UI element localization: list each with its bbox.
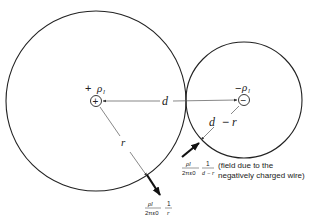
svg-text:2πε0: 2πε0 [145, 210, 159, 216]
field-note-line2: negatively charged wire) [218, 171, 305, 180]
distance-d-minus-r-line-upper [231, 106, 239, 114]
negative-charge-sign: − [241, 95, 247, 106]
field-formula-positive: ρl 2πε0 1 r [145, 200, 172, 216]
two-wire-field-diagram: d r d − r + + ρ l − − ρ l ρl 2πε0 1 r ρl… [0, 0, 328, 220]
distance-d-minus-r-label-d: d [209, 115, 216, 129]
field-formula-negative: ρl 2πε0 1 d − r (field due to the negati… [182, 160, 305, 180]
negative-charge-label-sign: − [235, 82, 241, 94]
svg-text:ρl: ρl [147, 200, 153, 207]
svg-text:2πε0: 2πε0 [182, 170, 196, 176]
svg-text:d − r: d − r [202, 170, 215, 176]
svg-text:r: r [167, 209, 170, 216]
svg-text:ρl: ρl [185, 160, 191, 167]
field-arrow-positive [147, 175, 160, 195]
negative-charge-label-sub: l [248, 87, 250, 95]
field-note-line1: (field due to the [218, 161, 274, 170]
distance-d-minus-r-label-r: r [232, 115, 237, 129]
positive-charge-sign: + [93, 96, 99, 107]
positive-charge-label-rho: ρ [96, 82, 102, 94]
positive-charge-label-sub: l [103, 88, 105, 96]
radius-r-line-lower [130, 152, 147, 176]
positive-charge-label-sign: + [85, 82, 91, 94]
radius-r-label: r [121, 136, 126, 148]
distance-d-label: d [162, 94, 169, 108]
svg-text:1: 1 [206, 160, 210, 167]
distance-d-minus-r-label-minus: − [222, 115, 229, 129]
negative-charge-label-rho: ρ [241, 81, 247, 93]
field-arrow-negative [182, 143, 199, 157]
distance-d-line-right [173, 100, 237, 101]
svg-text:1: 1 [167, 200, 171, 207]
radius-r-line-upper [100, 107, 120, 136]
